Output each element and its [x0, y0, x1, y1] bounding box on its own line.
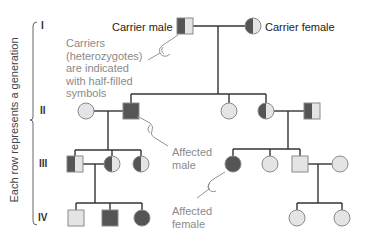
pointing-hand-icon: [137, 116, 168, 146]
affected-female-label: Affected female: [172, 205, 212, 230]
carrier-male-symbol: [304, 103, 320, 119]
generation-label-ii: II: [40, 105, 46, 116]
unaffected-male-symbol: [68, 210, 84, 226]
unaffected-female-symbol: [262, 156, 278, 172]
carrier-female-symbol: [258, 103, 274, 119]
unaffected-female-symbol: [221, 103, 237, 119]
affected-male-line: Affected: [172, 146, 212, 159]
unaffected-male-symbol: [292, 156, 308, 172]
generation-label-iii: III: [39, 158, 47, 169]
carriers-note-line: symbols: [66, 87, 142, 100]
affected-male-line: male: [172, 159, 212, 172]
affected-male-symbol: [102, 210, 118, 226]
carrier-male-symbol: [177, 18, 193, 34]
carrier-female-symbol: [245, 18, 261, 34]
carrier-female-label: Carrier female: [265, 21, 335, 33]
carriers-note-line: (heterozygotes): [66, 50, 142, 63]
carrier-male-symbol: [67, 156, 83, 172]
pointing-hand-icon: [197, 172, 225, 198]
unaffected-female-symbol: [332, 156, 348, 172]
carriers-note: Carriers (heterozygotes) are indicated w…: [66, 37, 142, 100]
carrier-female-symbol: [104, 156, 120, 172]
carriers-note-line: with half-filled: [66, 75, 142, 88]
carriers-note-line: are indicated: [66, 62, 142, 75]
unaffected-female-symbol: [78, 103, 94, 119]
pedigree-diagram: Each row represents a generation I II II…: [0, 0, 365, 241]
generation-brace: [30, 22, 37, 225]
generation-label-iv: IV: [38, 212, 47, 223]
affected-female-line: female: [172, 218, 212, 231]
generation-label-i: I: [41, 20, 44, 31]
affected-female-symbol: [134, 210, 150, 226]
carriers-note-line: Carriers: [66, 37, 142, 50]
carrier-female-symbol: [133, 156, 149, 172]
affected-male-symbol: [123, 103, 139, 119]
pointing-hand-icon: [148, 35, 178, 60]
unaffected-female-symbol: [334, 210, 350, 226]
affected-female-symbol: [225, 156, 241, 172]
generation-axis-label: Each row represents a generation: [8, 37, 20, 202]
affected-male-label: Affected male: [172, 146, 212, 171]
carrier-male-label: Carrier male: [112, 21, 173, 33]
affected-female-line: Affected: [172, 205, 212, 218]
unaffected-female-symbol: [289, 210, 305, 226]
